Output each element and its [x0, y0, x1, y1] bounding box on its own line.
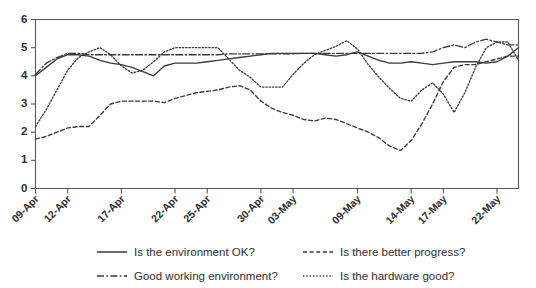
- series-line-1: [36, 39, 519, 74]
- y-tick-label: 6: [21, 13, 27, 25]
- legend-label-1: Good working environment?: [134, 270, 278, 282]
- x-tick-label: 09-May: [329, 192, 363, 226]
- y-tick-label: 2: [21, 125, 27, 137]
- x-tick-label: 14-May: [383, 192, 417, 226]
- x-tick-label: 09-Apr: [9, 192, 41, 224]
- x-tick-label: 30-Apr: [234, 192, 266, 224]
- legend-label-3: Is the hardware good?: [340, 270, 454, 282]
- series-line-2: [36, 56, 519, 150]
- axis-frame: [36, 20, 519, 189]
- y-tick-label: 5: [21, 41, 28, 53]
- plot-border: [36, 20, 519, 189]
- x-tick-label: 17-May: [415, 192, 449, 226]
- line-chart: 0123456 09-Apr12-Apr17-Apr22-Apr25-Apr30…: [0, 0, 536, 288]
- legend-label-0: Is the environment OK?: [134, 246, 255, 258]
- x-axis-labels: 09-Apr12-Apr17-Apr22-Apr25-Apr30-Apr03-M…: [9, 192, 503, 226]
- y-tick-label: 4: [21, 69, 28, 81]
- y-axis-ticks: 0123456: [21, 13, 35, 194]
- y-tick-label: 1: [21, 153, 28, 165]
- y-tick-label: 3: [21, 97, 27, 109]
- x-tick-label: 03-May: [265, 192, 299, 226]
- x-tick-label: 22-May: [469, 192, 503, 226]
- series-lines: [36, 39, 519, 150]
- y-tick-label: 0: [21, 182, 27, 194]
- x-tick-label: 12-Apr: [41, 192, 73, 224]
- chart-legend: Is the environment OK?Good working envir…: [97, 246, 465, 282]
- series-line-0: [36, 48, 519, 76]
- x-axis-ticks: [36, 189, 498, 194]
- x-tick-label: 22-Apr: [148, 192, 180, 224]
- x-tick-label: 25-Apr: [181, 192, 213, 224]
- legend-label-2: Is there better progress?: [340, 246, 465, 258]
- x-tick-label: 17-Apr: [95, 192, 127, 224]
- chart-canvas: 0123456 09-Apr12-Apr17-Apr22-Apr25-Apr30…: [0, 0, 536, 288]
